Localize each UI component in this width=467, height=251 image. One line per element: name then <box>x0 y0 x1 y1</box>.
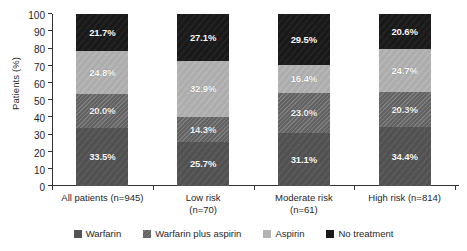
y-axis-tick-label: 30 <box>25 130 45 141</box>
bar-segment-value-label: 21.7% <box>89 28 115 38</box>
legend-swatch <box>263 230 271 238</box>
y-axis-tick: 20 <box>25 143 52 161</box>
legend-label: Warfarin <box>86 228 122 239</box>
y-axis-tick-label: 80 <box>25 44 45 55</box>
bar-segment[interactable]: 24.8% <box>76 51 128 94</box>
bar-segment[interactable]: 31.1% <box>278 133 330 186</box>
bar-stack[interactable]: 27.1%32.9%14.3%25.7% <box>177 14 229 186</box>
bar-segment[interactable]: 33.5% <box>76 128 128 186</box>
bar-stack[interactable]: 21.7%24.8%20.0%33.5% <box>76 14 128 186</box>
chart-legend: WarfarinWarfarin plus aspirinAspirinNo t… <box>0 228 467 239</box>
bar-segment-value-label: 31.1% <box>291 155 317 165</box>
y-axis-tick: 70 <box>25 57 52 75</box>
bar-segment[interactable]: 14.3% <box>177 117 229 142</box>
stacked-bar-chart: Patients (%) 1009080706050403020100 21.7… <box>0 0 467 251</box>
x-axis-tick-mark <box>52 186 53 190</box>
bar-segment[interactable]: 21.7% <box>76 14 128 51</box>
bar-group: 27.1%32.9%14.3%25.7% <box>153 14 254 186</box>
bar-segment[interactable]: 23.0% <box>278 93 330 133</box>
bar-segment-value-label: 32.9% <box>190 84 216 94</box>
y-axis-tick: 100 <box>25 5 52 23</box>
bar-segment[interactable]: 25.7% <box>177 142 229 186</box>
legend-item[interactable]: Warfarin plus aspirin <box>143 228 241 239</box>
y-axis-tick: 90 <box>25 22 52 40</box>
legend-label: Warfarin plus aspirin <box>155 228 241 239</box>
bar-segment[interactable]: 27.1% <box>177 14 229 61</box>
bar-segment-value-label: 33.5% <box>89 152 115 162</box>
y-axis-tick: 0 <box>25 177 52 195</box>
bar-segment-value-label: 20.3% <box>391 105 417 115</box>
plot-area: 1009080706050403020100 21.7%24.8%20.0%33… <box>52 14 455 186</box>
x-axis-category-label-line: (n=61) <box>254 204 355 216</box>
bar-segment-value-label: 24.8% <box>89 68 115 78</box>
y-axis-tick: 80 <box>25 39 52 57</box>
x-axis-category-label-line: All patients (n=945) <box>52 192 153 204</box>
y-axis-tick-label: 70 <box>25 62 45 73</box>
x-axis-tick-mark <box>455 186 456 190</box>
x-axis-tick-mark <box>153 186 154 190</box>
bar-group: 29.5%16.4%23.0%31.1% <box>254 14 355 186</box>
bar-segment-value-label: 16.4% <box>291 74 317 84</box>
bar-segment[interactable]: 20.0% <box>76 94 128 128</box>
y-axis-tick-label: 10 <box>25 165 45 176</box>
bar-stack[interactable]: 29.5%16.4%23.0%31.1% <box>278 14 330 186</box>
y-axis-tick: 60 <box>25 74 52 92</box>
bar-segment-value-label: 24.7% <box>391 66 417 76</box>
legend-item[interactable]: Warfarin <box>74 228 122 239</box>
bar-stack[interactable]: 20.6%24.7%20.3%34.4% <box>379 14 431 186</box>
x-axis-category-label: All patients (n=945) <box>52 192 153 215</box>
legend-label: Aspirin <box>275 228 304 239</box>
bar-segment[interactable]: 20.6% <box>379 14 431 49</box>
bar-segment[interactable]: 34.4% <box>379 127 431 186</box>
legend-item[interactable]: No treatment <box>326 228 393 239</box>
legend-swatch <box>326 230 334 238</box>
y-axis-tick: 30 <box>25 125 52 143</box>
bar-segment-value-label: 20.0% <box>89 106 115 116</box>
bar-segment-value-label: 34.4% <box>391 152 417 162</box>
legend-swatch <box>74 230 82 238</box>
x-axis-category-label-line: Moderate risk <box>254 192 355 204</box>
y-axis-tick-label: 90 <box>25 27 45 38</box>
bar-segment[interactable]: 20.3% <box>379 92 431 127</box>
bar-group: 21.7%24.8%20.0%33.5% <box>52 14 153 186</box>
x-axis-labels: All patients (n=945)Low risk(n=70)Modera… <box>52 192 455 215</box>
legend-label: No treatment <box>338 228 393 239</box>
y-axis-tick: 40 <box>25 108 52 126</box>
bar-segment[interactable]: 16.4% <box>278 65 330 93</box>
y-axis-tick-label: 20 <box>25 148 45 159</box>
x-axis-category-label: High risk (n=814) <box>354 192 455 215</box>
y-axis-tick-label: 0 <box>25 182 45 193</box>
x-axis-category-label-line: High risk (n=814) <box>354 192 455 204</box>
x-axis-category-label-line: (n=70) <box>153 204 254 216</box>
bars-layer: 21.7%24.8%20.0%33.5%27.1%32.9%14.3%25.7%… <box>52 14 455 186</box>
bar-segment[interactable]: 29.5% <box>278 14 330 65</box>
bar-segment[interactable]: 24.7% <box>379 49 431 91</box>
legend-item[interactable]: Aspirin <box>263 228 304 239</box>
x-axis-tick-mark <box>354 186 355 190</box>
x-axis-category-label: Moderate risk(n=61) <box>254 192 355 215</box>
y-axis-tick-label: 50 <box>25 96 45 107</box>
bar-segment-value-label: 25.7% <box>190 159 216 169</box>
y-axis-tick: 10 <box>25 160 52 178</box>
bar-segment[interactable]: 32.9% <box>177 61 229 118</box>
bar-segment-value-label: 23.0% <box>291 108 317 118</box>
bar-segment-value-label: 27.1% <box>190 33 216 43</box>
bar-segment-value-label: 29.5% <box>291 35 317 45</box>
x-axis-category-label: Low risk(n=70) <box>153 192 254 215</box>
y-axis-tick-label: 100 <box>25 10 45 21</box>
bar-segment-value-label: 14.3% <box>190 125 216 135</box>
x-axis-tick-mark <box>254 186 255 190</box>
y-axis-title: Patients (%) <box>10 34 21 134</box>
bar-segment-value-label: 20.6% <box>391 27 417 37</box>
x-axis-ticks <box>52 186 455 191</box>
y-axis-tick: 50 <box>25 91 52 109</box>
legend-swatch <box>143 230 151 238</box>
y-axis-tick-label: 60 <box>25 79 45 90</box>
bar-group: 20.6%24.7%20.3%34.4% <box>354 14 455 186</box>
x-axis-category-label-line: Low risk <box>153 192 254 204</box>
y-axis-tick-label: 40 <box>25 113 45 124</box>
